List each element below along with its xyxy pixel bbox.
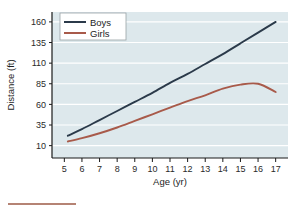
x-tick-label-8: 8 <box>115 164 120 174</box>
chart-figure: 567891011121314151617 10356085110135160 … <box>0 0 304 212</box>
x-tick-label-17: 17 <box>271 164 281 174</box>
x-tick-label-10: 10 <box>147 164 157 174</box>
line-chart-svg: 567891011121314151617 10356085110135160 … <box>0 0 304 212</box>
x-tick-label-13: 13 <box>200 164 210 174</box>
x-axis-title: Age (yr) <box>153 176 187 187</box>
legend-label-boys: Boys <box>90 17 111 28</box>
x-tick-label-5: 5 <box>62 164 67 174</box>
y-tick-label-110: 110 <box>32 58 46 68</box>
y-tick-label-160: 160 <box>31 17 46 27</box>
y-axis-title: Distance (ft) <box>5 59 16 110</box>
y-tick-label-60: 60 <box>36 100 46 110</box>
x-tick-label-6: 6 <box>79 164 84 174</box>
x-tick-label-11: 11 <box>165 164 174 174</box>
x-tick-label-16: 16 <box>253 164 263 174</box>
x-tick-label-12: 12 <box>183 164 193 174</box>
legend: Boys Girls <box>60 13 126 40</box>
x-tick-label-9: 9 <box>132 164 137 174</box>
y-tick-label-35: 35 <box>36 120 46 130</box>
y-tick-label-135: 135 <box>31 38 46 48</box>
y-tick-label-10: 10 <box>36 141 46 151</box>
x-tick-label-14: 14 <box>218 164 228 174</box>
legend-label-girls: Girls <box>90 28 110 39</box>
x-tick-label-15: 15 <box>235 164 245 174</box>
x-tick-label-7: 7 <box>97 164 102 174</box>
y-tick-label-85: 85 <box>36 79 46 89</box>
